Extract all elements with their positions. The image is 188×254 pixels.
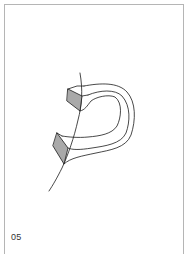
guide-curve: [49, 73, 82, 191]
figure-number: 05: [11, 232, 21, 242]
upper-end-face: [67, 89, 82, 111]
